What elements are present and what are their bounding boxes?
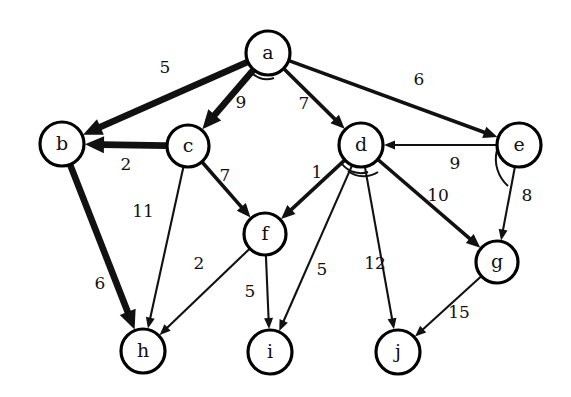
- edge-a-to-e: [290, 61, 487, 133]
- node-label-i: i: [267, 340, 273, 362]
- edge-weight-e-d: 9: [450, 153, 461, 173]
- edge-weight-a-d: 7: [299, 93, 310, 113]
- node-a[interactable]: a: [246, 31, 290, 75]
- edge-weight-d-j: 12: [364, 253, 386, 273]
- node-label-a: a: [262, 41, 273, 63]
- arrowhead-f-to-i: [264, 318, 273, 329]
- edge-d-to-j: [365, 168, 392, 321]
- edge-weight-g-j: 15: [448, 302, 470, 322]
- node-label-g: g: [491, 250, 503, 272]
- arrowhead-d-to-i: [279, 319, 288, 331]
- edge-weight-a-e: 6: [414, 69, 425, 89]
- edge-a-to-b: [99, 62, 247, 128]
- node-label-j: j: [393, 340, 401, 362]
- arrowhead-b-to-h: [120, 309, 136, 330]
- edge-weight-c-h: 11: [132, 201, 154, 221]
- edge-weight-d-i: 5: [317, 259, 328, 279]
- graph-svg: abcdefghij 597627116151210982515: [0, 0, 571, 397]
- edge-weight-c-b: 2: [121, 154, 132, 174]
- arrowhead-a-to-e: [482, 127, 497, 138]
- node-h[interactable]: h: [121, 329, 165, 373]
- edge-weight-c-f: 7: [220, 165, 231, 185]
- arrowhead-c-to-h: [146, 317, 155, 329]
- node-label-e: e: [513, 133, 524, 155]
- edge-e-to-g: [503, 168, 515, 232]
- node-label-b: b: [56, 132, 68, 154]
- edge-f-to-i: [266, 256, 269, 320]
- angle-arc-markers: [253, 74, 508, 186]
- node-d[interactable]: d: [339, 123, 383, 167]
- edge-weight-e-g: 8: [522, 185, 533, 205]
- edge-weight-a-b: 5: [160, 57, 171, 77]
- edge-weight-d-g: 10: [427, 185, 449, 205]
- graph-diagram-canvas: abcdefghij 597627116151210982515: [0, 0, 571, 397]
- arrowhead-e-to-d: [384, 141, 395, 150]
- node-c[interactable]: c: [167, 125, 209, 167]
- arrowhead-c-to-b: [85, 136, 104, 153]
- edge-weight-d-f: 1: [312, 162, 323, 182]
- edge-weight-b-h: 6: [95, 273, 106, 293]
- node-label-h: h: [137, 339, 149, 361]
- edge-d-to-i: [283, 166, 352, 323]
- node-label-d: d: [355, 133, 367, 155]
- edge-weight-f-i: 5: [245, 281, 256, 301]
- node-b[interactable]: b: [40, 122, 84, 166]
- node-e[interactable]: e: [497, 123, 541, 167]
- nodes-layer: abcdefghij: [40, 31, 541, 374]
- node-f[interactable]: f: [244, 213, 286, 255]
- node-g[interactable]: g: [476, 241, 518, 283]
- node-i[interactable]: i: [248, 330, 292, 374]
- arrowhead-e-to-g: [499, 229, 508, 241]
- edge-weight-f-h: 2: [194, 253, 205, 273]
- edge-c-to-h: [150, 167, 183, 319]
- edge-c-to-b: [102, 145, 166, 146]
- node-j[interactable]: j: [376, 330, 420, 374]
- node-label-c: c: [183, 134, 194, 156]
- edge-f-to-h: [166, 249, 249, 329]
- edge-weight-a-c: 9: [236, 92, 247, 112]
- arrowhead-d-to-j: [388, 318, 397, 330]
